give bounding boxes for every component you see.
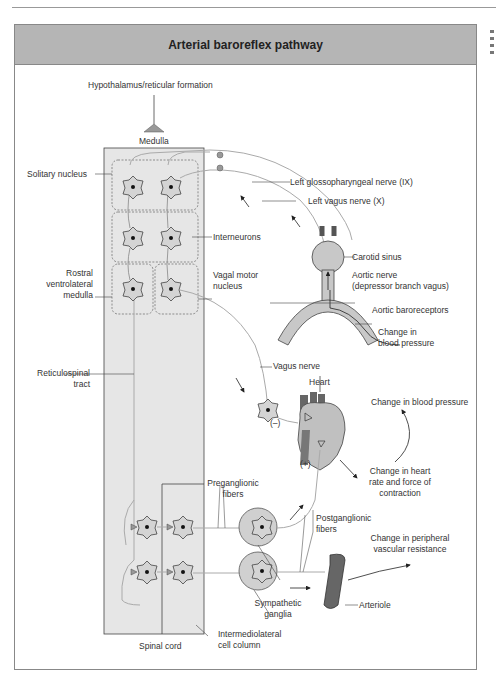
label-left-vagus: Left vagus nerve (X) xyxy=(308,196,385,207)
aortic-arch xyxy=(278,300,378,345)
label-change-in-blood-pressure: Change in blood pressure xyxy=(371,397,468,408)
label-carotid-sinus: Carotid sinus xyxy=(352,252,402,263)
arteriole-icon xyxy=(324,554,345,608)
label-rvlm: Rostral ventrolateral medulla xyxy=(30,268,93,301)
label-iml-cell-column: Intermediolateral cell column xyxy=(218,629,281,651)
label-plus: (+) xyxy=(300,459,311,470)
ganglion-dot xyxy=(217,152,223,158)
medulla-triangle-icon xyxy=(144,124,164,132)
label-change-pvr: Change in peripheral vascular resistance xyxy=(365,533,455,555)
label-left-glossopharyngeal: Left glossopharyngeal nerve (IX) xyxy=(290,177,413,188)
label-solitary-nucleus: Solitary nucleus xyxy=(27,169,87,180)
ganglion-dot xyxy=(217,165,223,171)
label-heart: Heart xyxy=(309,377,330,388)
label-medulla: Medulla xyxy=(139,136,169,147)
label-vagus-nerve: Vagus nerve xyxy=(273,361,320,372)
label-sympathetic-ganglia: Sympathetic ganglia xyxy=(248,598,308,620)
label-postganglionic-fibers: Postganglionic fibers xyxy=(316,513,371,535)
label-minus: (–) xyxy=(270,418,280,429)
label-reticulospinal-tract: Reticulospinal tract xyxy=(20,368,90,390)
label-arteriole: Arteriole xyxy=(359,600,391,611)
label-aortic-baroreceptors: Aortic baroreceptors xyxy=(372,305,449,316)
label-aortic-nerve: Aortic nerve (depressor branch vagus) xyxy=(352,270,449,292)
label-change-hr: Change in heart rate and force of contra… xyxy=(360,466,440,499)
spinal-cord-column xyxy=(104,148,204,634)
label-spinal-cord: Spinal cord xyxy=(139,641,182,652)
label-hypothalamus: Hypothalamus/reticular formation xyxy=(88,80,213,91)
carotid-sinus xyxy=(312,241,344,273)
label-vagal-motor-nucleus: Vagal motor nucleus xyxy=(213,270,258,292)
label-preganglionic-fibers: Preganglionic fibers xyxy=(203,478,263,500)
label-interneurons: Interneurons xyxy=(213,232,261,243)
label-change-in-bp: Change in blood pressure xyxy=(378,327,434,349)
